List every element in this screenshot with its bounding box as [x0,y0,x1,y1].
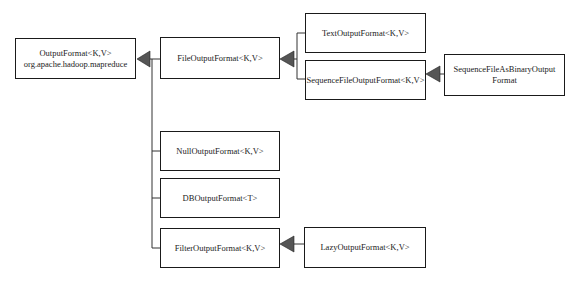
node-sequencefileoutputformat: SequenceFileOutputFormat<K,V> [305,60,426,100]
inherit-arrowhead [280,236,294,252]
inherit-arrowhead [426,66,440,82]
node-dboutputformat: DBOutputFormat<T> [160,178,280,218]
node-nulloutputformat: NullOutputFormat<K,V> [160,131,280,171]
node-label: SequenceFileAsBinaryOutput [454,64,556,75]
node-label: NullOutputFormat<K,V> [176,146,263,157]
node-label: FileOutputFormat<K,V> [177,53,262,64]
inherit-arrowhead [137,51,150,67]
node-fileoutputformat: FileOutputFormat<K,V> [160,37,280,79]
node-label-cont: Format [492,75,517,86]
node-lazyoutputformat: LazyOutputFormat<K,V> [304,227,426,268]
node-label: TextOutputFormat<K,V> [322,28,409,39]
node-textoutputformat: TextOutputFormat<K,V> [305,13,426,53]
node-sequencefileasbinaryoutputformat: SequenceFileAsBinaryOutput Format [444,54,565,96]
node-label: LazyOutputFormat<K,V> [320,242,409,253]
node-label: SequenceFileOutputFormat<K,V> [307,75,425,86]
node-label: OutputFormat<K,V> [39,48,111,59]
node-filteroutputformat: FilterOutputFormat<K,V> [160,228,280,268]
node-package: org.apache.hadoop.mapreduce [24,59,127,70]
node-label: DBOutputFormat<T> [183,193,258,204]
inherit-arrowhead [280,51,294,67]
node-label: FilterOutputFormat<K,V> [175,243,266,254]
node-outputformat: OutputFormat<K,V> org.apache.hadoop.mapr… [15,38,136,79]
